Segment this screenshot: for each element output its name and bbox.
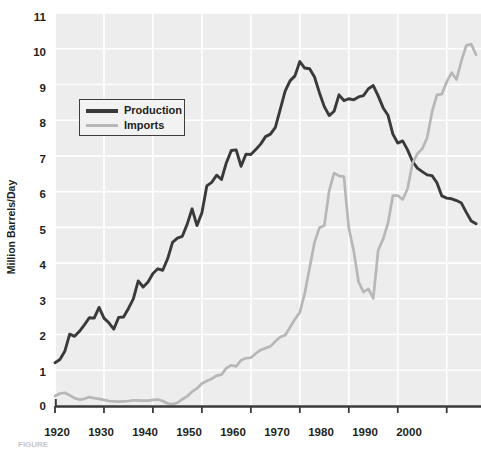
chart-container: Million Barrels/Day 11 10 9 8 7 6 5 4 3 … — [0, 0, 481, 449]
figure-caption: FIGURE — [18, 440, 48, 449]
chart-legend: Production Imports — [79, 99, 185, 136]
legend-label-production: Production — [124, 105, 182, 116]
legend-item-imports: Imports — [86, 118, 164, 133]
legend-label-imports: Imports — [124, 120, 164, 131]
legend-item-production: Production — [86, 103, 182, 118]
legend-swatch-production-icon — [86, 109, 118, 113]
legend-swatch-imports-icon — [86, 124, 118, 127]
plot-area — [0, 0, 481, 449]
